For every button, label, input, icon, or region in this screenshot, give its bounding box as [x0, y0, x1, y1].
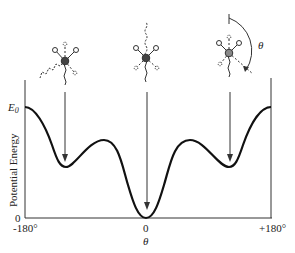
x-tick-plus-180: +180°: [259, 222, 286, 234]
conformer-anti-icon: [134, 22, 159, 82]
potential-energy-curve: [25, 107, 271, 218]
x-axis-label: θ: [143, 235, 149, 247]
arrow-gauche-right: [227, 92, 233, 162]
arrow-gauche-left: [62, 92, 68, 162]
y-tick-e0: E0: [7, 101, 19, 115]
y-axis-label: Potential Energy: [7, 133, 19, 207]
conformer-gauche-left-icon: [40, 42, 79, 85]
conformer-gauche-right-icon: [217, 35, 254, 77]
potential-energy-diagram: θ E0 0 Potential Energy -180° 0 +180° θ: [0, 0, 295, 253]
angle-theta-label: θ: [258, 39, 264, 51]
arrow-anti: [144, 92, 150, 210]
x-tick-minus-180: -180°: [13, 222, 38, 234]
x-tick-zero: 0: [143, 222, 149, 234]
